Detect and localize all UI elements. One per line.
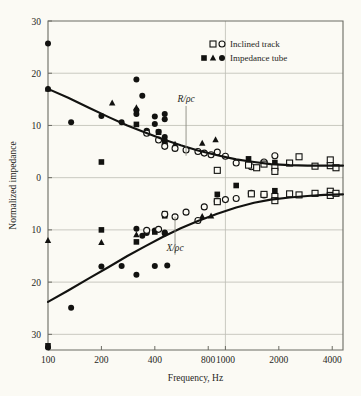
data-point-open-square [246,162,252,168]
data-point-filled-circle [133,272,139,278]
data-point-filled-triangle [199,140,205,146]
data-point-filled-triangle [133,231,139,237]
data-point-open-circle [172,145,178,151]
data-point-filled-circle [152,263,158,269]
data-point-filled-triangle [109,100,115,106]
series-filled-square [99,122,278,166]
data-point-open-square [248,191,254,197]
legend-label: Impedance tube [230,53,287,63]
data-point-filled-triangle [45,237,51,243]
data-point-filled-square [99,159,105,165]
y-tick-label: 0 [36,173,41,183]
legend-entry: Inclined track [210,39,280,49]
legend-entry: Impedance tube [201,53,287,63]
data-point-filled-triangle [133,104,139,110]
y-tick-label: 30 [32,17,42,27]
data-point-filled-triangle [210,55,216,61]
ticks-layer [48,21,332,350]
data-point-open-square [254,165,260,171]
data-point-filled-square [134,239,140,245]
data-points-layer [45,40,339,350]
series-filled-triangle [45,212,214,245]
data-point-open-square [214,199,220,205]
data-point-filled-square [45,343,51,349]
data-point-open-square [214,167,220,173]
x-tick-label: 4000 [323,355,342,365]
x-tick-label: 2000 [269,355,288,365]
x-tick-label: 800 [201,355,216,365]
data-point-open-circle [162,143,168,149]
data-point-filled-circle [162,111,168,117]
data-point-open-circle [162,211,168,217]
data-point-filled-square [201,55,207,61]
data-point-open-square [261,191,267,197]
data-point-filled-circle [162,116,168,122]
data-point-filled-circle [119,263,125,269]
data-point-filled-square [156,129,162,135]
data-point-open-circle [222,197,228,203]
y-tick-label: 20 [32,278,42,288]
data-point-open-circle [144,227,150,233]
data-point-filled-square [233,183,239,189]
data-point-open-circle [233,196,239,202]
y-axis-title: Normalized impedance [8,141,18,229]
x-tick-label: 1000 [216,355,235,365]
plot-frame [48,21,343,350]
series-filled-circle [45,226,170,351]
data-point-filled-square [134,122,140,128]
legend-label: Inclined track [230,39,280,49]
series-filled-square [45,183,277,349]
legend: Inclined trackImpedance tube [201,39,287,63]
impedance-frequency-chart: R/ρcX/ρc Inclined trackImpedance tube 10… [0,0,361,396]
data-point-filled-circle [164,262,170,268]
annotation-label: R/ρc [176,94,195,104]
data-point-filled-circle [152,121,158,127]
data-point-filled-circle [133,226,139,232]
y-tick-label: 30 [32,330,42,340]
data-point-filled-circle [133,76,139,82]
x-tick-label: 200 [94,355,109,365]
data-point-open-circle [156,226,162,232]
data-point-open-circle [272,153,278,159]
data-point-open-circle [183,209,189,215]
data-point-filled-triangle [98,239,104,245]
x-tick-label: 100 [41,355,56,365]
data-point-filled-circle [68,119,74,125]
data-point-filled-square [214,192,220,198]
chart-canvas: R/ρcX/ρc Inclined trackImpedance tube 10… [0,0,361,396]
x-tick-label: 400 [148,355,163,365]
data-point-filled-triangle [212,136,218,142]
axes-layer [48,21,343,350]
fitted-curve [48,194,343,302]
data-point-filled-circle [152,114,158,120]
data-point-open-circle [219,41,225,47]
data-point-filled-circle [133,111,139,117]
data-point-filled-circle [45,40,51,46]
data-point-filled-circle [219,55,225,61]
y-tick-label: 10 [32,225,42,235]
y-tick-label: 20 [32,69,42,79]
y-tick-label: 10 [32,121,42,131]
annotation-label: X/ρc [165,243,184,253]
x-axis-title: Frequency, Hz [168,373,223,383]
gridlines-layer [48,21,343,350]
data-point-filled-circle [68,305,74,311]
annotations-layer: R/ρcX/ρc [165,94,195,255]
data-point-filled-circle [139,93,145,99]
data-point-open-square [210,41,216,47]
axis-tick-labels: 1002004008001000200040003020100102030 [32,17,342,366]
data-point-open-circle [233,160,239,166]
data-point-filled-circle [98,263,104,269]
data-point-filled-square [272,188,278,194]
data-point-open-circle [201,204,207,210]
data-point-open-square [287,191,293,197]
data-point-open-square [327,157,333,163]
data-point-open-square [296,154,302,160]
data-point-open-square [272,168,278,174]
data-point-filled-square [99,227,105,233]
